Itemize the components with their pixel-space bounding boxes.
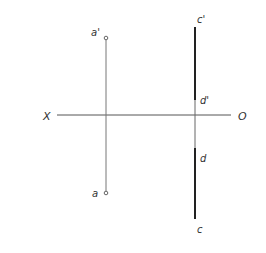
label-d-prime: d' [200,95,209,106]
axis-label-x: X [42,110,51,123]
label-c: c [197,224,203,235]
label-a: a [92,188,98,199]
label-c-prime: c' [197,14,205,25]
label-a-prime: a' [91,27,100,38]
point-a [104,191,108,195]
projection-diagram: X O a' a c' d' d c [0,0,266,253]
axis-label-o: O [238,110,247,123]
point-a-prime [104,36,108,40]
label-d: d [200,153,207,164]
